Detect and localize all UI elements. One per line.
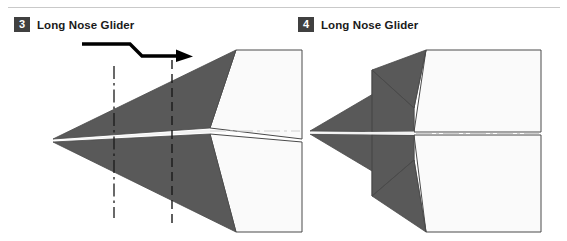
- paper-light-lower-body: [414, 135, 541, 232]
- step-3-title: Long Nose Glider: [37, 19, 134, 31]
- instruction-page: 3 Long Nose Glider 4 Long Nose Glider: [0, 0, 567, 241]
- step-4-number-badge: 4: [298, 17, 314, 32]
- step-4-header: 4 Long Nose Glider: [298, 17, 418, 32]
- header-divider-rule: [8, 7, 560, 8]
- step-3-number-badge: 3: [14, 17, 30, 32]
- pleat-fold-arrow-icon: [82, 44, 193, 62]
- step-4-title: Long Nose Glider: [321, 19, 418, 31]
- step-3-header: 3 Long Nose Glider: [14, 17, 134, 32]
- paper-light-upper-body: [414, 50, 541, 132]
- long-nose-glider-step-4-diagram: [298, 38, 550, 234]
- paper-shaded-upper-wing: [53, 50, 236, 139]
- long-nose-glider-step-3-diagram: [14, 38, 304, 234]
- paper-shaded-lower-wing: [53, 134, 236, 232]
